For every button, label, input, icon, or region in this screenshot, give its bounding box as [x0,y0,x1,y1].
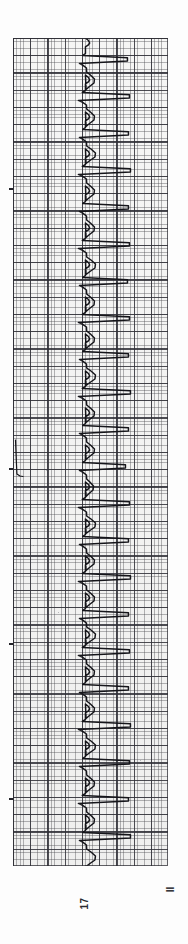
ecg-waveform-path [78,38,130,866]
paper-corner-mark: 25 [168,76,169,88]
ecg-paper: 25 [13,38,168,866]
paper-wash [13,38,168,866]
edge-tick [9,468,13,470]
edge-tick [9,188,13,190]
ecg-trace [13,38,168,866]
ecg-page: 25 17 II [0,0,188,944]
edge-tick [9,643,13,645]
ecg-artifact-path [16,440,24,477]
ecg-bold-grid [13,38,168,866]
ecg-paper-border [13,38,168,866]
edge-tick [9,798,13,800]
page-number: 17 [79,897,90,909]
ecg-fine-grid [13,38,168,866]
lead-label: II [165,887,176,893]
